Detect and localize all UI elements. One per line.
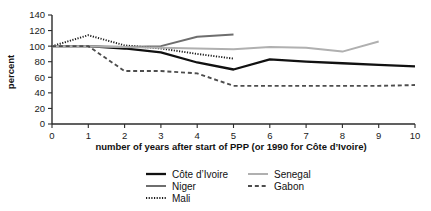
x-tick-label: 7 — [303, 130, 308, 141]
y-tick-label: 120 — [29, 25, 45, 36]
y-tick-label: 20 — [34, 103, 45, 114]
x-tick-label: 10 — [410, 130, 421, 141]
legend-label-senegal: Senegal — [274, 169, 311, 180]
legend-label-mali: Mali — [172, 193, 190, 204]
y-tick-label: 140 — [29, 9, 45, 20]
y-axis-title: percent — [5, 54, 16, 89]
y-axis-ticks: 020406080100120140 — [29, 9, 52, 129]
x-tick-label: 8 — [340, 130, 345, 141]
x-tick-label: 0 — [49, 130, 54, 141]
chart-legend: Côte d’IvoireSenegalNigerGabonMali — [146, 169, 311, 204]
legend-label-niger: Niger — [172, 181, 197, 192]
x-tick-label: 5 — [231, 130, 236, 141]
x-tick-label: 1 — [86, 130, 91, 141]
x-tick-label: 2 — [122, 130, 127, 141]
x-tick-label: 9 — [376, 130, 381, 141]
x-tick-label: 6 — [267, 130, 272, 141]
y-tick-label: 80 — [34, 56, 45, 67]
x-tick-label: 4 — [195, 130, 200, 141]
series-line-gabon — [52, 46, 415, 86]
series-lines — [52, 34, 415, 85]
x-axis-ticks: 012345678910 — [49, 124, 420, 141]
y-tick-label: 100 — [29, 41, 45, 52]
series-line-senegal — [52, 41, 379, 51]
y-tick-label: 40 — [34, 87, 45, 98]
y-tick-label: 0 — [40, 118, 45, 129]
chart-figure: percent 020406080100120140 012345678910 … — [0, 0, 431, 211]
x-tick-label: 3 — [158, 130, 163, 141]
legend-label-c-te-d-ivoire: Côte d’Ivoire — [172, 169, 229, 180]
legend-label-gabon: Gabon — [274, 181, 304, 192]
y-axis-title-text: percent — [5, 54, 16, 89]
y-tick-label: 60 — [34, 72, 45, 83]
line-chart: percent 020406080100120140 012345678910 … — [0, 0, 431, 211]
x-axis-title-text: number of years after start of PPP (or 1… — [95, 141, 366, 152]
